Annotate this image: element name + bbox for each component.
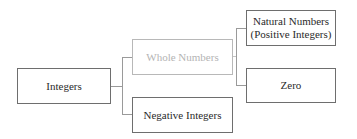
connector-to-zero [236, 85, 246, 86]
connector-to-negative-integers [122, 114, 132, 115]
connector-to-natural-numbers [236, 28, 246, 29]
connector-integers-stem [110, 86, 122, 87]
node-whole-numbers-label: Whole Numbers [146, 51, 218, 64]
node-negative-integers-label: Negative Integers [144, 109, 222, 122]
node-zero: Zero [246, 68, 336, 103]
node-natural-numbers-label-line2: (Positive Integers) [251, 28, 332, 41]
node-zero-label: Zero [281, 79, 302, 92]
node-natural-numbers: Natural Numbers (Positive Integers) [246, 10, 336, 46]
node-whole-numbers: Whole Numbers [132, 39, 233, 75]
connector-integers-spine [122, 57, 123, 115]
connector-whole-numbers-spine [236, 28, 237, 86]
node-integers-label: Integers [46, 80, 81, 93]
node-integers: Integers [17, 68, 111, 104]
node-natural-numbers-label-line1: Natural Numbers [253, 15, 329, 28]
node-negative-integers: Negative Integers [132, 97, 233, 133]
connector-to-whole-numbers [122, 57, 132, 58]
